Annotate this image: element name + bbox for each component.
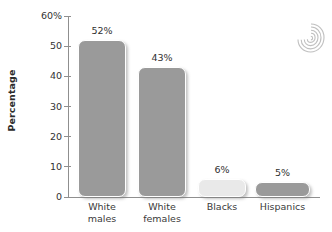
category-label-line: White: [148, 201, 176, 212]
y-tick-mark: [64, 106, 71, 107]
category-label-line: males: [70, 213, 134, 225]
y-tick-mark: [64, 46, 71, 47]
category-label: Blacks: [190, 201, 254, 213]
y-tick-mark: [64, 16, 71, 17]
bar-value-label: 43%: [138, 52, 186, 63]
category-label-line: females: [130, 213, 194, 225]
y-tick-label: 0: [26, 191, 62, 202]
bar: [138, 67, 186, 197]
y-tick-label: 30: [26, 101, 62, 112]
spiral-icon: [296, 22, 326, 54]
bar-value-label: 5%: [255, 167, 310, 178]
y-tick-label: 40: [26, 70, 62, 81]
y-tick-mark: [64, 136, 71, 137]
plot-area: 0102030405060% 52%43%6%5% WhitemalesWhit…: [0, 0, 332, 232]
bar: [78, 40, 126, 197]
y-axis-line: [68, 16, 69, 198]
category-label: Whitefemales: [130, 201, 194, 224]
bar-value-label: 52%: [78, 25, 126, 36]
bar: [198, 179, 246, 197]
y-tick-mark: [64, 76, 71, 77]
category-label-line: Blacks: [207, 201, 238, 212]
y-tick-mark: [64, 197, 71, 198]
category-label-line: Hispanics: [260, 201, 305, 212]
y-tick-label: 10: [26, 161, 62, 172]
category-label: Whitemales: [70, 201, 134, 224]
y-tick-mark: [64, 166, 71, 167]
category-label-line: White: [88, 201, 116, 212]
bar-value-label: 6%: [198, 164, 246, 175]
y-tick-label: 20: [26, 131, 62, 142]
x-axis-line: [68, 197, 320, 198]
y-tick-label: 50: [26, 40, 62, 51]
bar: [255, 182, 310, 197]
bar-chart: Percentage 0102030405060% 52%43%6%5% Whi…: [0, 0, 332, 232]
category-label: Hispanics: [247, 201, 318, 213]
y-tick-label: 60%: [26, 10, 62, 21]
